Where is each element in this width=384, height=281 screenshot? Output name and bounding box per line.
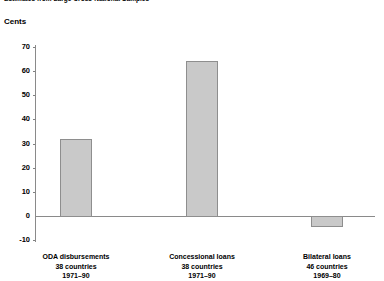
x-category-label-concessional: Concessional loans 38 countries 1971–90 (157, 252, 247, 281)
bar-oda-disbursements (60, 139, 92, 217)
x-category-line: Concessional loans (157, 252, 247, 262)
y-tick-label: 10 (6, 188, 30, 196)
y-tick-label: -10 (6, 236, 30, 244)
x-category-line: 1971–90 (157, 271, 247, 281)
bar-concessional-loans (186, 61, 218, 217)
bar-bilateral-loans (311, 216, 343, 227)
y-tick-label: 60 (6, 67, 30, 75)
x-category-line: 1971–90 (31, 271, 121, 281)
x-category-line: 38 countries (157, 262, 247, 272)
y-tick-label: 0 (6, 212, 30, 220)
y-tick-label: 20 (6, 164, 30, 172)
x-category-line: Bilateral loans (282, 252, 372, 262)
x-category-line: ODA disbursements (31, 252, 121, 262)
bar-chart: 70 60 50 40 30 20 10 0 -10 ODA disbursem… (0, 0, 384, 281)
y-tick-label: 40 (6, 115, 30, 123)
x-category-line: 1969–80 (282, 271, 372, 281)
y-tick-label: 30 (6, 140, 30, 148)
x-category-label-bilateral: Bilateral loans 46 countries 1969–80 (282, 252, 372, 281)
x-category-line: 38 countries (31, 262, 121, 272)
x-category-label-oda: ODA disbursements 38 countries 1971–90 (31, 252, 121, 281)
y-tick-label: 50 (6, 91, 30, 99)
y-axis-line (35, 45, 36, 242)
y-tick-label: 70 (6, 43, 30, 51)
x-category-line: 46 countries (282, 262, 372, 272)
